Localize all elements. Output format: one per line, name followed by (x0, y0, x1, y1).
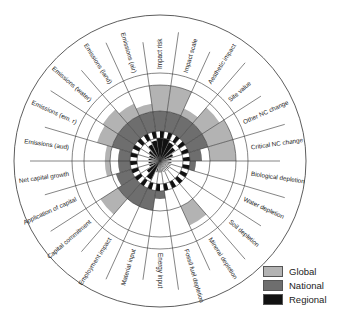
category-label: Employment impact (77, 236, 114, 287)
category-label: Application of capital (22, 195, 78, 226)
category-label: Emissions (em. r) (30, 98, 78, 126)
category-label: Emissions (air) (119, 32, 138, 74)
category-label: Impact scale (182, 37, 200, 74)
category-label: Energy input (156, 253, 164, 289)
legend-item-national: National (263, 278, 327, 292)
bar-segment (183, 157, 190, 161)
legend-swatch-national (263, 280, 283, 291)
spoke-line (160, 161, 245, 259)
category-label: Emissions (water) (50, 65, 93, 104)
legend-swatch-regional (263, 294, 283, 305)
category-label: Critical NC change (250, 136, 304, 151)
category-label: Net capital growth (18, 170, 70, 185)
category-label: Mineral depletion (207, 236, 240, 281)
category-label: Emissions (land) (82, 42, 114, 85)
category-label: Aesthetic impact (206, 42, 238, 85)
bar-segment (155, 191, 166, 199)
legend-swatch-global (263, 266, 283, 277)
category-label: Other NC change (242, 98, 290, 126)
category-label: Fossil fuel depletion (182, 248, 205, 304)
bar-segment (181, 199, 207, 226)
legend-label-global: Global (289, 266, 316, 277)
category-label: Capital commitment (46, 218, 93, 261)
legend-item-global: Global (263, 264, 327, 278)
category-label: Emissions (aud) (24, 137, 70, 151)
legend-label-national: National (289, 280, 324, 291)
category-label: Impact risk (156, 38, 164, 69)
category-label: Biological depletion (251, 170, 306, 186)
bar-segment (105, 145, 112, 161)
legend: Global National Regional (263, 264, 327, 306)
category-label: Site value (227, 79, 253, 103)
legend-item-regional: Regional (263, 292, 327, 306)
category-label: Water depletion (242, 195, 286, 221)
category-label: Material input (119, 248, 137, 287)
bar-segment (130, 161, 137, 165)
legend-label-regional: Regional (289, 294, 327, 305)
bar-segment (105, 161, 112, 177)
